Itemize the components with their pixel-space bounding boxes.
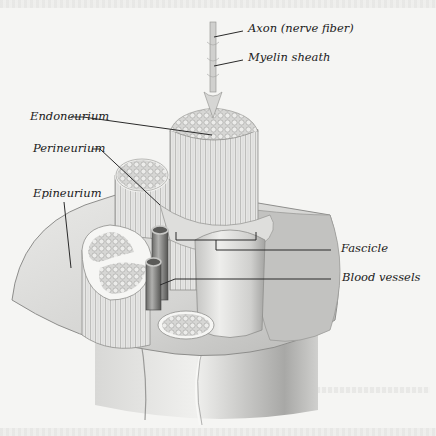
axon-strand bbox=[210, 22, 216, 92]
label-blood-vessels: Blood vessels bbox=[342, 272, 420, 284]
label-myelin-sheath: Myelin sheath bbox=[248, 52, 331, 64]
diagram-page: Axon (nerve fiber) Myelin sheath Endoneu… bbox=[0, 0, 436, 436]
label-epineurium: Epineurium bbox=[33, 188, 102, 200]
nerve-illustration bbox=[0, 0, 436, 436]
label-endoneurium: Endoneurium bbox=[30, 111, 109, 123]
label-fascicle: Fascicle bbox=[341, 243, 388, 255]
label-axon: Axon (nerve fiber) bbox=[248, 23, 354, 35]
label-perineurium: Perineurium bbox=[33, 143, 105, 155]
blood-vessel-2 bbox=[146, 262, 161, 310]
